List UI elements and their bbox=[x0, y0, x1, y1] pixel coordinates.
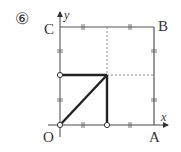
bold-segment-diagonal bbox=[60, 75, 107, 125]
problem-number: ⑥ bbox=[15, 10, 29, 27]
label-o: O bbox=[43, 129, 54, 145]
open-point-left bbox=[57, 72, 62, 77]
label-y-axis: y bbox=[63, 8, 70, 22]
open-point-bottom bbox=[104, 122, 109, 127]
diagram-canvas: ⑥ C B A O x y bbox=[0, 0, 181, 152]
label-c: C bbox=[44, 21, 54, 37]
label-x-axis: x bbox=[160, 110, 167, 124]
label-b: B bbox=[158, 18, 168, 34]
label-a: A bbox=[149, 129, 160, 145]
origin-point bbox=[57, 122, 62, 127]
